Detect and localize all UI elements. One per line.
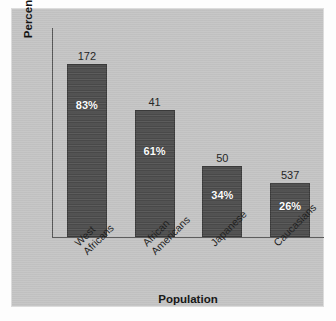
bar-slot: 50 34%: [189, 28, 257, 237]
bar-value-label: 34%: [211, 189, 233, 201]
sample-size-label: 537: [281, 169, 299, 181]
figure-container: Percent CC genotype 172 83% 41 61%: [0, 0, 336, 321]
sample-size-label: 41: [149, 96, 161, 108]
x-axis-label: Population: [52, 293, 324, 305]
y-axis-label-prefix: Percent: [22, 0, 34, 38]
bar-value-label: 83%: [76, 99, 98, 111]
sample-size-label: 172: [78, 50, 96, 62]
y-axis-label: Percent CC genotype: [22, 0, 34, 56]
bar-texture: [68, 65, 106, 236]
plot-area: 172 83% 41 61% 50: [52, 28, 324, 238]
bar-west-africans[interactable]: 83%: [67, 64, 107, 237]
sample-size-label: 50: [216, 152, 228, 164]
bar-slot: 41 61%: [121, 28, 189, 237]
bar-slot: 172 83%: [53, 28, 121, 237]
x-axis-tick-labels: West Africans African Americans Japanese…: [52, 240, 324, 292]
bar-value-label: 26%: [279, 200, 301, 212]
bar-value-label: 61%: [144, 145, 166, 157]
chart-panel: Percent CC genotype 172 83% 41 61%: [12, 9, 323, 306]
bar-series: 172 83% 41 61% 50: [53, 28, 324, 237]
